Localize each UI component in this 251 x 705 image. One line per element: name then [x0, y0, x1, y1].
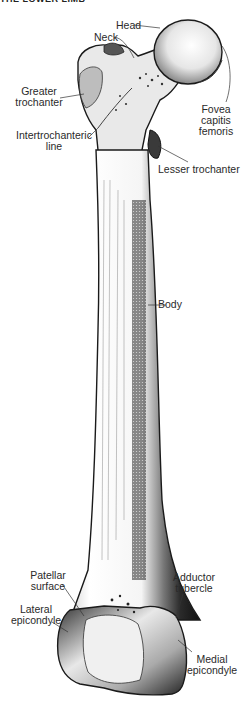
- label-body: Body: [158, 299, 182, 310]
- label-intertrochanteric-line: Intertrochanteric line: [14, 130, 94, 152]
- femoral-head: [154, 20, 222, 84]
- label-lesser-trochanter: Lesser trochanter: [158, 164, 240, 175]
- label-fovea-capitis-femoris: Fovea capitis femoris: [196, 104, 236, 137]
- label-head: Head: [116, 20, 141, 31]
- label-greater-trochanter: Greater trochanter: [14, 86, 64, 108]
- label-medial-epicondyle: Medial epicondyle: [184, 654, 240, 676]
- label-lateral-epicondyle: Lateral epicondyle: [8, 604, 64, 626]
- label-patellar-surface: Patellar surface: [26, 570, 70, 592]
- distal-femur: [58, 595, 187, 695]
- label-neck: Neck: [94, 32, 118, 43]
- label-adductor-tubercle: Adductor tubercle: [170, 572, 218, 594]
